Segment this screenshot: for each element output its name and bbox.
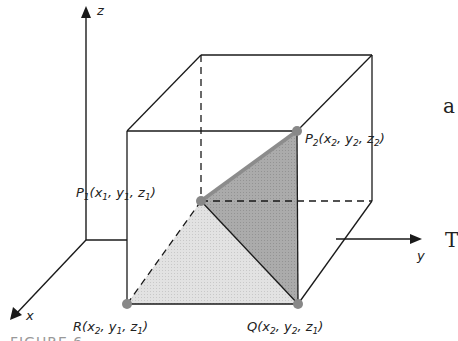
z-arrow-icon: [81, 6, 91, 18]
point-q: [293, 299, 303, 309]
x-axis-label: x: [25, 308, 34, 323]
figure-diagram: z y x P1(x1, y1, z1) P2(x2, y2, z2) R(x2…: [0, 0, 458, 341]
label-r: R(x2, y1, z1): [73, 319, 148, 336]
label-p1: P1(x1, y1, z1): [76, 185, 156, 202]
label-q: Q(x2, y2, z1): [247, 319, 323, 336]
side-text-bottom: T: [445, 228, 458, 252]
y-arrow-icon: [410, 234, 422, 244]
figure-caption: FIGURE 6: [10, 334, 83, 341]
z-axis-label: z: [96, 3, 105, 18]
x-axis: [16, 240, 86, 314]
y-axis-label: y: [416, 248, 425, 263]
point-p1: [196, 196, 206, 206]
point-p2: [292, 126, 302, 136]
side-text-top: a: [443, 94, 455, 118]
point-r: [122, 299, 132, 309]
label-p2: P2(x2, y2, z2): [305, 131, 385, 148]
